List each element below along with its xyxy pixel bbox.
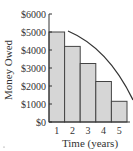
bar-year-3 — [80, 64, 96, 123]
x-tick-label: 5 — [117, 125, 122, 136]
x-axis-label: Time (years) — [62, 137, 118, 150]
y-tick-label: $0 — [36, 117, 46, 128]
y-axis-label: Money Owed — [2, 39, 14, 100]
x-tick-label: 1 — [54, 125, 59, 136]
y-tick-label: $1000 — [21, 99, 46, 110]
bar-year-1 — [49, 32, 65, 122]
y-axis: $0$1000$2000$3000$4000$5000$6000 — [21, 9, 52, 128]
bar-year-2 — [65, 46, 81, 122]
stray-dot — [3, 146, 4, 147]
x-tick-label: 2 — [70, 125, 75, 136]
y-tick-label: $6000 — [21, 9, 46, 20]
y-tick-label: $3000 — [21, 63, 46, 74]
y-tick-label: $5000 — [21, 27, 46, 38]
bars — [49, 32, 127, 122]
x-axis: 12345 — [54, 125, 121, 136]
x-tick-label: 4 — [101, 125, 106, 136]
y-tick-label: $2000 — [21, 81, 46, 92]
bar-chart: $0$1000$2000$3000$4000$5000$6000 12345 T… — [0, 0, 133, 151]
y-tick-label: $4000 — [21, 45, 46, 56]
bar-year-5 — [111, 101, 127, 122]
bar-year-4 — [96, 82, 112, 123]
x-tick-label: 3 — [86, 125, 91, 136]
